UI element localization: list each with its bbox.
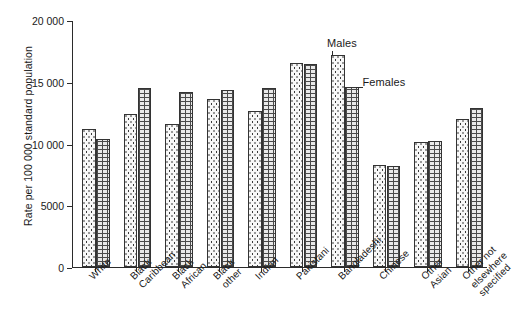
bar-male	[290, 63, 304, 267]
y-tick-label: 0	[58, 263, 64, 274]
bar-male	[414, 142, 428, 267]
y-tick-label: 20 000	[32, 16, 64, 27]
y-tick-label: 5000	[41, 201, 64, 212]
annotation-males: Males	[327, 37, 357, 49]
bar-group	[248, 88, 276, 267]
y-tick-mark	[67, 145, 72, 146]
bar-group	[165, 92, 193, 267]
x-axis-category-labels: WhiteBlack CaribbeanBlack AfricanBlack o…	[72, 274, 492, 335]
bar-female	[304, 64, 318, 267]
bar-male	[207, 99, 221, 267]
leader-line-females	[356, 87, 363, 88]
bar-group	[373, 165, 401, 268]
bar-male	[248, 111, 262, 267]
bar-female	[470, 108, 484, 267]
bar-female	[179, 92, 193, 267]
plot-area: 0500010 00015 00020 000 Males Females	[72, 21, 487, 268]
bar-group	[414, 141, 442, 267]
y-tick-mark	[67, 21, 72, 22]
bar-male	[331, 55, 345, 267]
bar-group	[331, 55, 359, 267]
bar-female	[138, 88, 152, 267]
bar-female	[221, 90, 235, 267]
leader-line-males	[332, 51, 333, 56]
bar-group	[290, 63, 318, 267]
bar-group	[456, 108, 484, 267]
bar-male	[124, 114, 138, 267]
annotation-females: Females	[363, 76, 406, 88]
bar-series-container	[73, 21, 487, 267]
bar-female	[262, 88, 276, 267]
y-tick-mark	[67, 206, 72, 207]
y-tick-label: 10 000	[32, 139, 64, 150]
y-axis-label: Rate per 100 000 standard population	[22, 16, 34, 256]
bar-female	[345, 87, 359, 267]
y-tick-mark	[67, 268, 72, 269]
bar-group	[207, 90, 235, 267]
y-tick-mark	[67, 83, 72, 84]
bar-group	[124, 88, 152, 267]
bar-female	[96, 139, 110, 267]
y-tick-label: 15 000	[32, 78, 64, 89]
bar-group	[82, 129, 110, 267]
bar-female	[428, 141, 442, 267]
bar-male	[82, 129, 96, 267]
bar-male	[456, 119, 470, 267]
